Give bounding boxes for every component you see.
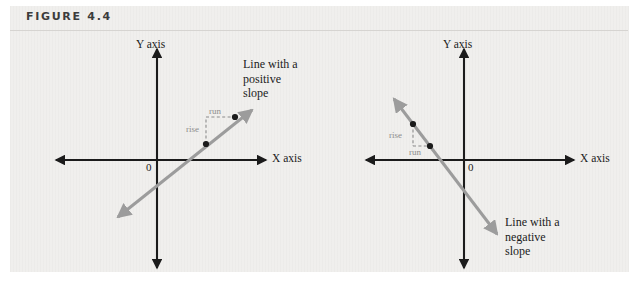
y-axis-label-negative: Y axis: [443, 38, 472, 50]
rise-label-negative: rise: [389, 130, 402, 140]
caption-line: negative: [505, 230, 560, 245]
figure-container: FIGURE 4.4 Y axis X axis 0 rise run: [0, 0, 639, 284]
run-label-negative: run: [409, 147, 421, 157]
caption-negative-slope: Line with a negative slope: [505, 215, 560, 259]
data-point-upper-negative: [410, 121, 416, 127]
data-point-lower-negative: [427, 143, 433, 149]
caption-line: slope: [505, 244, 560, 259]
negative-slope-line: [394, 99, 497, 234]
x-axis-label-negative: X axis: [580, 152, 610, 164]
origin-label-negative: 0: [468, 161, 474, 173]
caption-line: Line with a: [505, 215, 560, 230]
